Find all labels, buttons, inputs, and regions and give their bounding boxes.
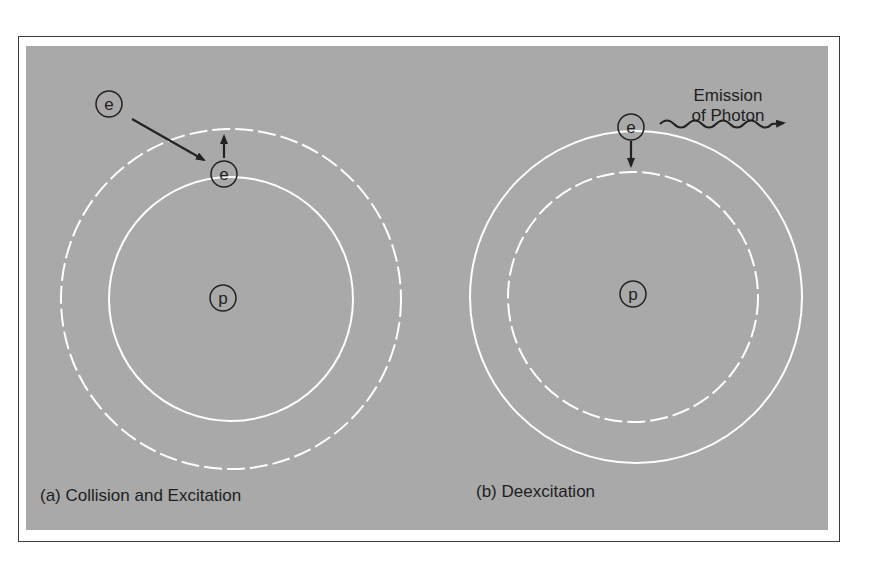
panel-a-incoming-electron: e xyxy=(96,91,122,117)
panel-b-nucleus: p xyxy=(620,281,646,307)
panel-a-diagram: p e e xyxy=(61,91,401,469)
panel-a-outer-orbit-dashed xyxy=(61,129,401,469)
emission-label-line2: of Photon xyxy=(680,106,776,126)
panel-b-diagram: p e xyxy=(470,114,802,463)
panel-b-orbit-electron: e xyxy=(618,114,644,140)
svg-text:e: e xyxy=(219,165,228,184)
svg-text:p: p xyxy=(218,289,227,308)
emission-label-line1: Emission xyxy=(680,86,776,106)
panel-a-nucleus: p xyxy=(210,285,236,311)
panel-a-inner-orbit-solid xyxy=(109,177,353,421)
svg-text:e: e xyxy=(626,118,635,137)
emission-of-photon-label: Emission of Photon xyxy=(680,86,776,126)
caption-panel-b: (b) Deexcitation xyxy=(476,482,595,502)
svg-text:p: p xyxy=(628,285,637,304)
panel-a-orbit-electron: e xyxy=(211,161,237,187)
svg-text:e: e xyxy=(104,95,113,114)
caption-panel-a: (a) Collision and Excitation xyxy=(40,486,241,506)
